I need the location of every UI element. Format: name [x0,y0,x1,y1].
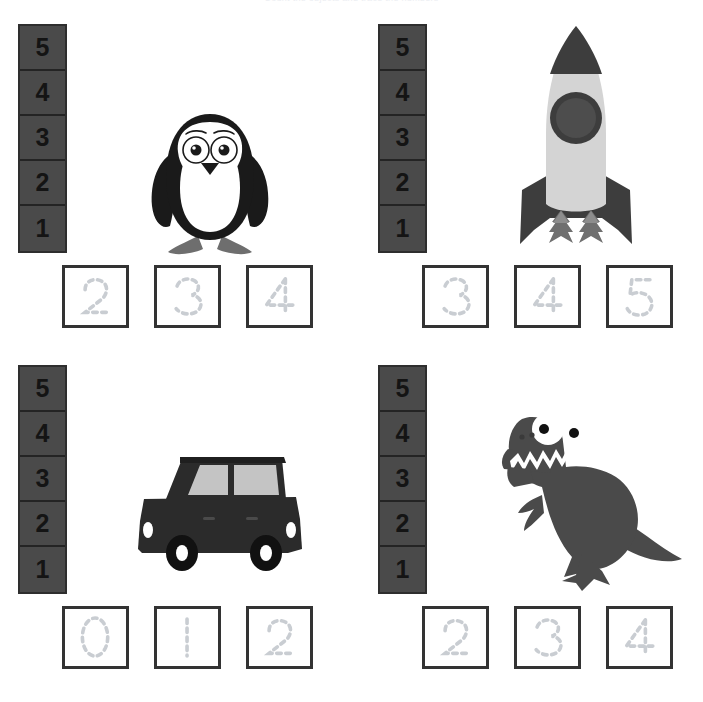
trace-box[interactable]: 2 [62,265,129,328]
panel-penguin: 5 4 3 2 1 [10,22,350,352]
ladder-cell[interactable]: 3 [20,116,65,161]
number-ladder-penguin: 5 4 3 2 1 [18,24,67,253]
ladder-cell[interactable]: 2 [380,161,425,206]
ladder-cell[interactable]: 2 [380,502,425,547]
ladder-cell[interactable]: 3 [20,457,65,502]
trace-row-rocket: 3 4 5 [422,265,703,328]
ladder-cell[interactable]: 1 [20,547,65,592]
ladder-cell[interactable]: 4 [380,412,425,457]
ladder-cell[interactable]: 4 [380,71,425,116]
ladder-cell[interactable]: 5 [20,26,65,71]
penguin-illustration [70,22,350,267]
dinosaur-illustration [430,363,703,608]
ladder-cell[interactable]: 5 [380,26,425,71]
page-title: Count the objects and trace the numbers [0,0,703,4]
trace-row-penguin: 2 3 4 [62,265,352,328]
trace-box[interactable]: 4 [246,265,313,328]
trace-box[interactable]: 4 [606,606,673,669]
trace-box[interactable]: 1 [154,606,221,669]
trace-box[interactable]: 2 [246,606,313,669]
panel-rocket: 5 4 3 2 1 [370,22,703,352]
worksheet-page: Count the objects and trace the numbers … [0,0,703,702]
ladder-cell[interactable]: 1 [380,547,425,592]
car-illustration [70,363,350,608]
number-ladder-dinosaur: 5 4 3 2 1 [378,365,427,594]
trace-box[interactable]: 3 [422,265,489,328]
trace-box[interactable]: 4 [514,265,581,328]
ladder-cell[interactable]: 5 [20,367,65,412]
panel-car: 5 4 3 2 1 [10,363,350,693]
ladder-cell[interactable]: 2 [20,502,65,547]
trace-row-dinosaur: 2 3 4 [422,606,703,669]
ladder-cell[interactable]: 3 [380,116,425,161]
trace-box[interactable]: 0 [62,606,129,669]
ladder-cell[interactable]: 5 [380,367,425,412]
ladder-cell[interactable]: 4 [20,412,65,457]
ladder-cell[interactable]: 1 [20,206,65,251]
ladder-cell[interactable]: 1 [380,206,425,251]
trace-box[interactable]: 3 [514,606,581,669]
number-ladder-rocket: 5 4 3 2 1 [378,24,427,253]
trace-row-car: 0 1 2 [62,606,352,669]
trace-box[interactable]: 5 [606,265,673,328]
trace-box[interactable]: 3 [154,265,221,328]
rocket-illustration [430,22,703,267]
trace-box[interactable]: 2 [422,606,489,669]
ladder-cell[interactable]: 2 [20,161,65,206]
panel-dinosaur: 5 4 3 2 1 [370,363,703,693]
number-ladder-car: 5 4 3 2 1 [18,365,67,594]
ladder-cell[interactable]: 4 [20,71,65,116]
ladder-cell[interactable]: 3 [380,457,425,502]
